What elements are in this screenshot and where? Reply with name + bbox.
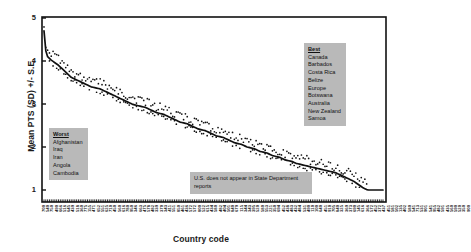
error-dot (360, 177, 362, 179)
error-dot (279, 153, 281, 155)
error-dot (261, 143, 263, 145)
error-dot (74, 76, 76, 78)
error-dot (88, 89, 90, 91)
error-dot (355, 186, 357, 188)
error-dot (127, 98, 129, 100)
error-dot (194, 130, 196, 132)
error-dot (266, 156, 268, 158)
error-dot (355, 172, 357, 174)
error-dot (221, 140, 223, 142)
error-dot (230, 137, 232, 139)
error-dot (297, 155, 299, 157)
y-tick-label: 1 (20, 185, 36, 194)
error-dot (94, 79, 96, 81)
error-dot (292, 157, 294, 159)
error-dot (154, 103, 156, 105)
error-dot (63, 62, 65, 64)
error-dot (306, 155, 308, 157)
error-dot (264, 149, 266, 151)
error-dot (154, 115, 156, 117)
error-dot (150, 111, 152, 113)
error-dot (63, 73, 65, 75)
error-dot (308, 158, 310, 160)
error-dot (195, 118, 197, 120)
error-dot (186, 126, 188, 128)
error-dot (101, 84, 103, 86)
error-dot (65, 67, 67, 69)
error-dot (284, 157, 286, 159)
error-dot (152, 104, 154, 106)
error-dot (299, 166, 301, 168)
error-dot (257, 144, 259, 146)
error-dot (346, 180, 348, 182)
error-dot (43, 26, 45, 28)
error-dot (210, 130, 212, 132)
error-dot (172, 116, 174, 118)
error-dot (340, 172, 342, 174)
y-tick-label: 3 (20, 99, 36, 108)
error-dot (67, 64, 69, 66)
error-dot (243, 141, 245, 143)
error-dot (49, 52, 51, 54)
error-dot (99, 78, 101, 80)
error-dot (76, 82, 78, 84)
error-dot (259, 154, 261, 156)
error-dot (359, 180, 361, 182)
error-dot (117, 93, 119, 95)
error-dot (206, 135, 208, 137)
y-tick-label: 2 (20, 142, 36, 151)
error-dot (159, 102, 161, 104)
x-axis-label: Country code (0, 234, 402, 244)
error-dot (165, 118, 167, 120)
y-tick-label: 5 (20, 13, 36, 22)
error-dot (78, 74, 80, 76)
worst-country-item: Iran (53, 154, 83, 162)
error-dot (319, 162, 321, 164)
error-dot (311, 160, 313, 162)
error-dot (223, 139, 225, 141)
error-dot (351, 173, 353, 175)
error-dot (141, 97, 143, 99)
error-dot (203, 122, 205, 124)
error-dot (351, 182, 353, 184)
error-dot (353, 175, 355, 177)
error-dot (83, 76, 85, 78)
error-dot (255, 153, 257, 155)
error-dot (232, 145, 234, 147)
error-dot (148, 113, 150, 115)
worst-country-item: Angola (53, 162, 83, 170)
error-dot (272, 150, 274, 152)
error-dot (92, 79, 94, 81)
error-dot (326, 172, 328, 174)
error-dot (132, 96, 134, 98)
error-dot (237, 140, 239, 142)
error-dot (146, 98, 148, 100)
best-country-item: Samoa (308, 115, 341, 123)
error-dot (188, 121, 190, 123)
error-dot (199, 131, 201, 133)
error-dot (143, 100, 145, 102)
error-dot (49, 60, 51, 62)
error-dot (83, 85, 85, 87)
error-dot (112, 97, 114, 99)
error-dot (321, 159, 323, 161)
error-dot (161, 115, 163, 117)
error-dot (119, 102, 121, 104)
error-dot (297, 167, 299, 169)
error-dot (248, 141, 250, 143)
error-dot (226, 141, 228, 143)
error-dot (139, 96, 141, 98)
error-dot (204, 122, 206, 124)
error-dot (346, 170, 348, 172)
worst-country-item: Afghanistan (53, 139, 83, 147)
error-dot (108, 85, 110, 87)
best-country-item: Barbados (308, 61, 341, 69)
error-dot (324, 166, 326, 168)
error-dot (364, 178, 366, 180)
error-dot (326, 165, 328, 167)
error-dot (328, 161, 330, 163)
error-dot (328, 174, 330, 176)
error-dot (177, 111, 179, 113)
error-dot (270, 158, 272, 160)
error-dot (136, 102, 138, 104)
